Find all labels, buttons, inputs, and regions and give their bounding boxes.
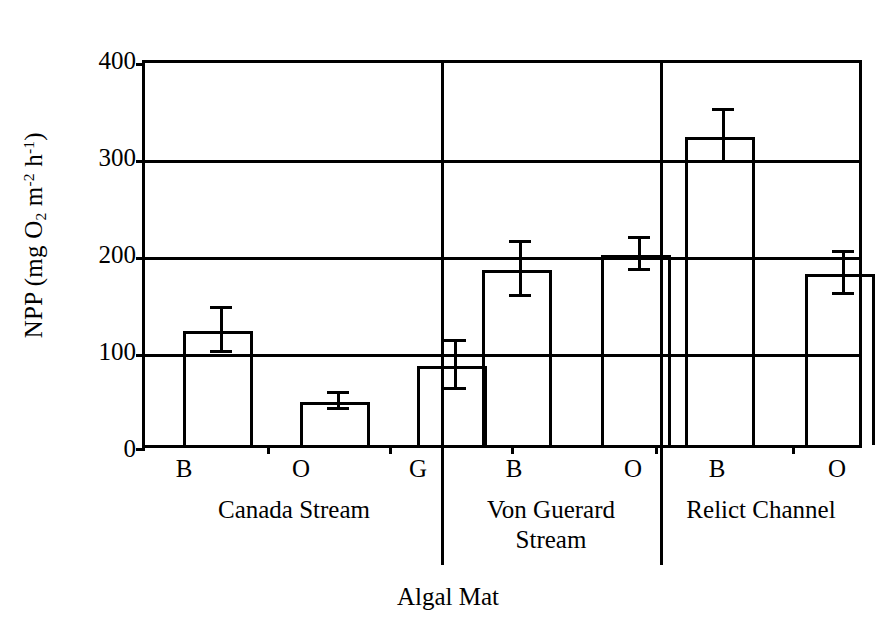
y-tick-mark-300 [136, 160, 145, 163]
y-axis-title-h-exponent: -1 [20, 141, 37, 154]
x-tick-mark-5 [792, 445, 795, 454]
y-tick-label-200: 200 [68, 242, 136, 267]
x-tick-mark-3 [511, 445, 514, 454]
y-axis-title-prefix: NPP (mg O [20, 220, 47, 338]
error-bar-cap-upper [509, 240, 531, 243]
x-group-label-canada-stream: Canada Stream [218, 495, 370, 525]
x-group-label-relict-channel: Relict Channel [686, 495, 835, 525]
error-bar-stem [842, 253, 845, 295]
y-tick-label-300: 300 [68, 145, 136, 170]
bar-relict-channel-o [805, 274, 875, 445]
bar-canada-stream-o [300, 402, 370, 445]
x-category-label-canada-b: B [176, 455, 193, 484]
error-bar-cap-upper [444, 339, 466, 342]
error-bar-cap-lower [210, 350, 232, 353]
y-tick-mark-100 [136, 354, 145, 357]
x-tick-mark-1 [267, 445, 270, 454]
y-tick-mark-0 [136, 448, 145, 451]
error-bar-stem [638, 239, 641, 271]
y-tick-label-0: 0 [68, 436, 136, 461]
y-axis-title-mid: m [20, 186, 47, 212]
bar-canada-stream-g [417, 366, 487, 445]
error-bar-stem [722, 111, 725, 163]
y-axis-title-suffix: ) [20, 132, 47, 141]
bar-relict-channel-b [685, 137, 755, 445]
error-bar-cap-lower [628, 268, 650, 271]
y-tick-label-400: 400 [68, 48, 136, 73]
error-bar-stem [220, 309, 223, 353]
error-bar-cap-upper [832, 250, 854, 253]
y-axis-title-m-exponent: -2 [20, 173, 37, 186]
y-tick-mark-400 [136, 63, 145, 66]
error-bar-stem [519, 243, 522, 297]
y-axis-tick-labels: 400 300 200 100 0 [64, 0, 136, 633]
x-tick-mark-2 [389, 445, 392, 454]
error-bar-cap-lower [832, 292, 854, 295]
y-tick-label-100: 100 [68, 339, 136, 364]
x-tick-mark-4 [655, 445, 658, 454]
error-bar-cap-lower [509, 294, 531, 297]
error-bar-cap-upper [628, 236, 650, 239]
error-bar-cap-upper [712, 108, 734, 111]
x-category-label-vonguerard-o: O [624, 455, 642, 484]
y-axis-title-o-subscript: 2 [32, 212, 49, 220]
x-category-label-canada-o: O [292, 455, 310, 484]
y-axis-title: NPP (mg O2 m-2 h-1) [0, 0, 70, 470]
error-bar-cap-lower [444, 387, 466, 390]
error-bar-cap-upper [327, 391, 349, 394]
x-category-label-canada-g: G [409, 455, 427, 484]
bar-von-guerard-stream-b [482, 270, 552, 445]
chart-figure: NPP (mg O2 m-2 h-1) 400 300 200 100 0 [0, 0, 896, 633]
group-separator-1 [441, 60, 444, 565]
error-bar-cap-upper [210, 306, 232, 309]
x-group-label-von-guerard-stream: Von Guerard Stream [487, 495, 615, 555]
x-group-label-von-guerard-line1: Von Guerard [487, 495, 615, 525]
error-bar-cap-lower [712, 160, 734, 163]
x-category-label-relict-o: O [828, 455, 846, 484]
y-axis-title-h: h [20, 154, 47, 173]
group-separator-2 [660, 60, 663, 565]
error-bar-cap-lower [327, 407, 349, 410]
x-axis-title: Algal Mat [0, 583, 896, 611]
x-category-label-relict-b: B [709, 455, 726, 484]
plot-area [142, 60, 862, 448]
x-category-label-vonguerard-b: B [506, 455, 523, 484]
x-group-label-von-guerard-line2: Stream [487, 525, 615, 555]
error-bar-stem [454, 342, 457, 390]
y-axis-title-text: NPP (mg O2 m-2 h-1) [20, 132, 50, 338]
y-tick-mark-200 [136, 257, 145, 260]
bar-canada-stream-b [183, 331, 253, 445]
